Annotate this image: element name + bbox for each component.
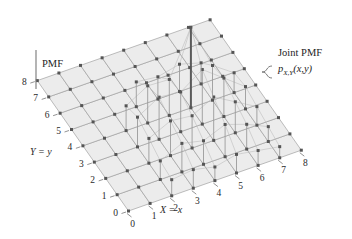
lattice-dot	[137, 186, 140, 189]
axis-tick-mark	[53, 114, 58, 116]
axis-tick-mark	[235, 176, 240, 180]
y-tick-label-2: 2	[90, 175, 95, 185]
pmf-stem-top-dot	[136, 116, 139, 119]
lattice-dot	[123, 89, 126, 92]
lattice-dot	[210, 59, 213, 62]
lattice-dot	[101, 56, 104, 59]
y-tick-label-6: 6	[45, 110, 50, 120]
lattice-dot	[69, 88, 72, 91]
axis-tick-mark	[76, 147, 81, 149]
lattice-dot	[257, 164, 260, 167]
x-axis-title: X = x	[159, 204, 183, 215]
pmf-stem-top-dot	[135, 80, 138, 83]
pmf-stem-top-dot	[213, 165, 216, 168]
lattice-dot	[146, 122, 149, 125]
axis-tick-mark	[127, 214, 132, 218]
lattice-dot	[255, 124, 258, 127]
pmf-stem-top-dot	[202, 139, 205, 142]
y-tick-label-8: 8	[22, 77, 27, 87]
lattice-dot	[104, 177, 107, 180]
x-tick-label-5: 5	[238, 181, 243, 191]
pmf-stem-top-dot	[235, 153, 238, 156]
lattice-dot	[277, 116, 280, 119]
axis-tick-mark	[30, 82, 35, 84]
lattice-dot	[222, 115, 225, 118]
lattice-dot	[126, 169, 129, 172]
lattice-dot	[200, 82, 203, 85]
axis-tick-mark	[42, 98, 47, 100]
lattice-dot	[254, 84, 257, 87]
joint-pmf-figure: PMF Y = y X = x 012345678 012345678 Join…	[0, 0, 352, 239]
lattice-dot	[245, 148, 248, 151]
joint-pmf-plot: PMF Y = y X = x 012345678 012345678 Join…	[0, 0, 352, 239]
lattice-dot	[267, 140, 270, 143]
x-tick-label-7: 7	[281, 165, 286, 175]
axis-tick-mark	[149, 206, 154, 210]
lattice-dot	[47, 95, 50, 98]
lattice-dot	[220, 35, 223, 38]
lattice-dot	[169, 154, 172, 157]
pmf-stem-top-dot	[159, 159, 162, 162]
axis-tick-mark	[99, 179, 104, 181]
pmf-stem-top-dot	[278, 145, 281, 148]
lattice-dot	[93, 161, 96, 164]
lattice-dot	[212, 139, 215, 142]
pmf-stem-top-dot	[180, 142, 183, 145]
y-tick-label-4: 4	[68, 142, 73, 152]
pmf-stem-top-dot	[170, 178, 173, 181]
lattice-dot	[158, 138, 161, 141]
pmf-stem-top-dot	[169, 119, 172, 122]
x-tick-label-0: 0	[130, 219, 135, 229]
lattice-dot	[127, 210, 130, 213]
lattice-dot	[180, 170, 183, 173]
lattice-dot	[300, 149, 303, 152]
lattice-dot	[92, 120, 95, 123]
lattice-dot	[70, 128, 73, 131]
lattice-dot	[156, 98, 159, 101]
x-tick-label-1: 1	[152, 211, 157, 221]
lattice-dot	[278, 156, 281, 159]
lattice-dot	[179, 130, 182, 133]
lattice-dot	[134, 65, 137, 68]
lattice-dot	[211, 99, 214, 102]
lattice-dot	[165, 34, 168, 37]
lattice-dot	[177, 50, 180, 53]
lattice-dot	[233, 91, 236, 94]
pmf-stem-top-dot	[168, 78, 171, 81]
lattice-dot	[213, 179, 216, 182]
y-tick-label-1: 1	[102, 191, 107, 201]
lattice-dot	[244, 107, 247, 110]
axis-tick-mark	[278, 160, 283, 164]
lattice-dot	[221, 75, 224, 78]
pmf-stem-top-dot	[192, 168, 195, 171]
axis-tick-mark	[122, 212, 127, 214]
lattice-dot	[147, 162, 150, 165]
y-axis-title: Y = y	[30, 146, 52, 157]
lattice-dot	[209, 18, 212, 21]
lattice-dot	[144, 41, 147, 44]
pmf-stem-top-dot	[200, 61, 203, 64]
lattice-dot	[224, 155, 227, 158]
axis-tick-mark	[170, 198, 175, 202]
lattice-dot	[159, 178, 162, 181]
pmf-stem-top-dot	[233, 71, 236, 74]
lattice-dot	[168, 114, 171, 117]
lattice-dot	[235, 172, 238, 175]
lattice-dot	[243, 67, 246, 70]
lattice-dot	[145, 81, 148, 84]
lattice-dot	[113, 113, 116, 116]
lattice-dot	[266, 100, 269, 103]
lattice-dot	[79, 64, 82, 67]
lattice-dot	[116, 193, 119, 196]
axis-tick-mark	[257, 168, 262, 172]
lattice-dot	[170, 194, 173, 197]
axis-tick-mark	[87, 163, 92, 165]
pmf-stem-top-dot	[178, 63, 181, 66]
x-tick-label-2: 2	[173, 203, 178, 213]
y-tick-label-5: 5	[56, 126, 61, 136]
pmf-stem-top-dot	[146, 84, 149, 87]
lattice-dot	[136, 145, 139, 148]
pmf-stem-top-dot	[211, 64, 214, 67]
lattice-dot	[178, 90, 181, 93]
pmf-stem-top-dot	[191, 114, 194, 117]
